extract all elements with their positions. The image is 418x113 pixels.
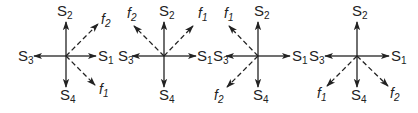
force-f2-dashed-arrow xyxy=(134,26,164,56)
label-s1: S1 xyxy=(98,47,114,66)
force-f1-dashed-arrow xyxy=(229,26,258,56)
label-f2: f2 xyxy=(101,11,111,29)
label-s1: S1 xyxy=(197,47,213,66)
label-f1: f1 xyxy=(198,5,207,23)
label-s3: S3 xyxy=(118,47,134,66)
force-f2-dashed-arrow xyxy=(357,56,388,86)
panel-2: S1 S2 S3 S4 f2 f1 xyxy=(118,2,213,105)
label-s1: S1 xyxy=(292,47,308,66)
force-f2-dashed-arrow xyxy=(66,24,98,56)
label-f1: f1 xyxy=(317,85,326,103)
label-f2: f2 xyxy=(127,5,137,23)
panel-4: S1 S2 S3 S4 f1 f2 xyxy=(309,2,407,105)
label-s2: S2 xyxy=(352,2,368,21)
panel-1: S1 S2 S3 S4 f2 f1 xyxy=(18,2,114,105)
label-s3: S3 xyxy=(213,47,229,66)
label-s4: S4 xyxy=(60,86,76,105)
label-s2: S2 xyxy=(254,2,270,21)
force-f1-dashed-arrow xyxy=(164,26,193,56)
force-f1-dashed-arrow xyxy=(66,56,95,85)
label-f2: f2 xyxy=(214,87,224,105)
label-s3: S3 xyxy=(18,47,34,66)
vector-diagram-figure: S1 S2 S3 S4 f2 f1 S1 S2 S3 S4 f2 f1 S1 S… xyxy=(0,0,418,113)
label-f1: f1 xyxy=(224,5,233,23)
label-s1: S1 xyxy=(391,47,407,66)
label-s2: S2 xyxy=(57,2,73,21)
label-s4: S4 xyxy=(351,86,367,105)
label-f1: f1 xyxy=(99,81,108,99)
label-f2: f2 xyxy=(390,85,400,103)
label-s4: S4 xyxy=(253,86,269,105)
label-s2: S2 xyxy=(159,2,175,21)
label-s4: S4 xyxy=(159,86,175,105)
panel-3: S1 S2 S3 S4 f1 f2 xyxy=(213,2,308,105)
force-f1-dashed-arrow xyxy=(327,56,357,86)
label-s3: S3 xyxy=(309,47,325,66)
force-f2-dashed-arrow xyxy=(227,56,258,87)
